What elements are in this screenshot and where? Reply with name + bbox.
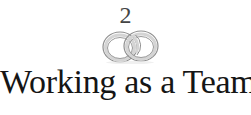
interlocking-rings-icon bbox=[100, 29, 162, 65]
chapter-number: 2 bbox=[0, 2, 251, 28]
chapter-title: Working as a Team bbox=[0, 62, 251, 102]
